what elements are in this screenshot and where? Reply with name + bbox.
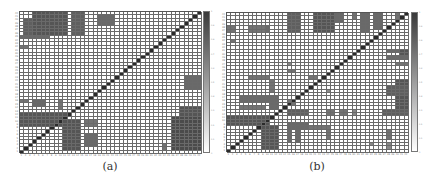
- y-tick-label: 26: [219, 66, 225, 69]
- y-tick-label: 36: [12, 32, 18, 35]
- colorbar-tick: 0.7: [419, 53, 422, 55]
- caption-b: (b): [297, 160, 337, 173]
- y-tick-label: 21: [12, 83, 18, 86]
- y-tick-label: 26: [12, 66, 18, 69]
- y-tick-label: 28: [219, 59, 225, 62]
- colorbar-tick: 0: [419, 151, 420, 153]
- y-tick-label: 41: [219, 16, 225, 19]
- colorbar-tick: 0.8: [211, 38, 214, 40]
- y-tick-label: 23: [12, 76, 18, 79]
- y-tick-label: 36: [219, 33, 225, 36]
- y-tick-label: 6: [219, 133, 225, 136]
- y-tick-label: 1: [12, 150, 18, 153]
- y-tick-label: 6: [12, 133, 18, 136]
- colorbar-tick: 0.4: [211, 95, 214, 97]
- y-tick-label: 15: [12, 103, 18, 106]
- y-tick-label: 18: [12, 93, 18, 96]
- y-tick-label: 42: [12, 12, 18, 15]
- y-tick-label: 24: [219, 73, 225, 76]
- y-tick-label: 19: [219, 89, 225, 92]
- y-tick-label: 41: [12, 15, 18, 18]
- y-tick-label: 32: [12, 45, 18, 48]
- y-tick-label: 2: [12, 147, 18, 150]
- y-tick-label: 29: [219, 56, 225, 59]
- y-tick-label: 13: [12, 110, 18, 113]
- y-tick-label: 7: [219, 129, 225, 132]
- y-tick-label: 17: [12, 96, 18, 99]
- y-tick-label: 30: [219, 53, 225, 56]
- colorbar-tick: 0.8: [419, 39, 422, 41]
- y-tick-label: 37: [219, 29, 225, 32]
- colorbar-tick: 0.6: [419, 67, 422, 69]
- y-tick-label: 7: [12, 130, 18, 133]
- y-tick-label: 5: [12, 137, 18, 140]
- y-tick-label: 39: [12, 22, 18, 25]
- heatmap-grid-b: [226, 12, 408, 152]
- y-tick-label: 30: [12, 52, 18, 55]
- colorbar-tick: 0.1: [419, 137, 422, 139]
- y-tick-label: 8: [219, 126, 225, 129]
- y-tick-label: 32: [219, 46, 225, 49]
- y-tick-label: 19: [12, 89, 18, 92]
- colorbar-tick: 0.1: [211, 138, 214, 140]
- y-tick-label: 37: [12, 28, 18, 31]
- y-tick-label: 5: [219, 136, 225, 139]
- y-tick-label: 11: [219, 116, 225, 119]
- y-tick-label: 40: [12, 18, 18, 21]
- colorbar-tick: 1: [211, 10, 212, 12]
- y-tick-label: 31: [12, 49, 18, 52]
- x-tick-label: 42: [404, 153, 408, 156]
- y-tick-label: 34: [219, 39, 225, 42]
- y-tick-label: 15: [219, 103, 225, 106]
- y-tick-label: 16: [12, 99, 18, 102]
- caption-a: (a): [90, 160, 130, 173]
- colorbar-a: [203, 11, 210, 153]
- y-tick-label: 17: [219, 96, 225, 99]
- y-tick-label: 33: [12, 42, 18, 45]
- colorbar-tick: 0.2: [419, 123, 422, 125]
- y-tick-label: 9: [219, 123, 225, 126]
- y-tick-label: 23: [219, 76, 225, 79]
- colorbar-tick: 0.4: [419, 95, 422, 97]
- colorbar-tick: 0.2: [211, 124, 214, 126]
- y-tick-label: 35: [12, 35, 18, 38]
- y-tick-label: 1: [219, 149, 225, 152]
- colorbar-tick: 0.9: [419, 25, 422, 27]
- heatmap-grid-a: [19, 11, 201, 153]
- y-tick-label: 10: [12, 120, 18, 123]
- y-tick-label: 39: [219, 23, 225, 26]
- colorbar-tick: 0: [211, 152, 212, 154]
- y-tick-label: 29: [12, 55, 18, 58]
- y-tick-label: 35: [219, 36, 225, 39]
- y-tick-label: 3: [219, 143, 225, 146]
- y-tick-label: 14: [12, 106, 18, 109]
- y-tick-label: 18: [219, 93, 225, 96]
- y-tick-label: 11: [12, 116, 18, 119]
- y-tick-label: 21: [219, 83, 225, 86]
- y-tick-label: 3: [12, 143, 18, 146]
- colorbar-tick: 0.5: [211, 81, 214, 83]
- colorbar-tick: 0.5: [419, 81, 422, 83]
- y-tick-label: 14: [219, 106, 225, 109]
- y-tick-label: 12: [219, 113, 225, 116]
- colorbar-tick: 0.6: [211, 67, 214, 69]
- y-tick-label: 4: [219, 139, 225, 142]
- y-tick-label: 38: [219, 26, 225, 29]
- y-tick-label: 22: [219, 79, 225, 82]
- y-tick-label: 25: [219, 69, 225, 72]
- y-tick-label: 8: [12, 126, 18, 129]
- y-tick-label: 2: [219, 146, 225, 149]
- y-tick-label: 33: [219, 43, 225, 46]
- y-tick-label: 13: [219, 109, 225, 112]
- colorbar-b: [411, 12, 418, 152]
- y-tick-label: 28: [12, 59, 18, 62]
- y-tick-label: 38: [12, 25, 18, 28]
- y-tick-label: 12: [12, 113, 18, 116]
- colorbar-tick: 0.3: [211, 109, 214, 111]
- y-tick-label: 24: [12, 72, 18, 75]
- y-tick-label: 34: [12, 39, 18, 42]
- x-tick-label: 42: [197, 154, 201, 157]
- y-tick-label: 9: [12, 123, 18, 126]
- y-tick-label: 42: [219, 13, 225, 16]
- y-tick-label: 25: [12, 69, 18, 72]
